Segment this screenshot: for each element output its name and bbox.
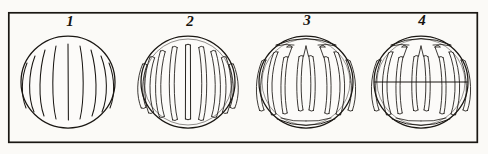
figure-2-thick-chromosomes (138, 36, 239, 128)
figure-label-3: 3 (297, 13, 317, 28)
illustration-plate: 1 2 3 4 (0, 0, 488, 154)
figure-label-4: 4 (412, 13, 432, 28)
figure-3-spindle-formed (256, 36, 355, 128)
figure-3-cell-outline (259, 36, 353, 128)
figure-1-spireme (21, 36, 115, 128)
figure-label-1: 1 (60, 14, 80, 29)
figure-4-equatorial-plate (371, 36, 470, 128)
figure-2-cell-outline (141, 36, 235, 128)
figure-label-2: 2 (180, 14, 200, 29)
